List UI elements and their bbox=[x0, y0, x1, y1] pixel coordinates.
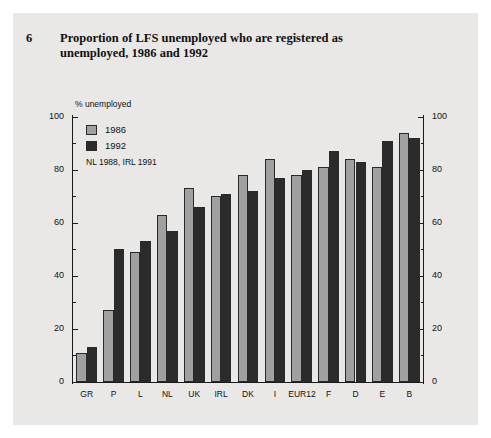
bar-EUR12-1986 bbox=[291, 175, 301, 382]
bar-IRL-1986 bbox=[211, 196, 221, 382]
y-tick-label-left-80: 80 bbox=[32, 165, 64, 174]
bar-group-B bbox=[396, 117, 423, 382]
page-title: Proportion of LFS unemployed who are reg… bbox=[60, 31, 412, 61]
legend-item-1986: 1986 bbox=[86, 125, 157, 135]
x-axis-label-NL: NL bbox=[154, 389, 181, 399]
x-axis-label-D: D bbox=[342, 389, 369, 399]
x-axis-label-DK: DK bbox=[235, 389, 262, 399]
figure-title-block: 6 Proportion of LFS unemployed who are r… bbox=[26, 31, 456, 61]
x-axis-label-F: F bbox=[315, 389, 342, 399]
legend-note: NL 1988, IRL 1991 bbox=[86, 157, 157, 167]
bar-GR-1986 bbox=[76, 353, 86, 382]
bar-group-F bbox=[315, 117, 342, 382]
x-axis-label-B: B bbox=[396, 389, 423, 399]
y-tick-label-right-40: 40 bbox=[432, 271, 464, 280]
x-axis-label-P: P bbox=[100, 389, 127, 399]
figure-panel: 6 Proportion of LFS unemployed who are r… bbox=[13, 13, 478, 425]
bar-group-EUR12 bbox=[288, 117, 315, 382]
bar-UK-1986 bbox=[184, 188, 194, 381]
bar-F-1986 bbox=[318, 167, 328, 382]
bar-IRL-1992 bbox=[221, 194, 231, 382]
bar-UK-1992 bbox=[194, 207, 204, 382]
bar-B-1992 bbox=[409, 138, 419, 382]
x-axis-label-GR: GR bbox=[73, 389, 100, 399]
bar-group-I bbox=[261, 117, 288, 382]
bar-NL-1992 bbox=[167, 231, 177, 382]
legend-item-1992: 1992 bbox=[86, 141, 157, 151]
x-axis-label-IRL: IRL bbox=[208, 389, 235, 399]
legend-label-1986: 1986 bbox=[105, 125, 126, 135]
bar-E-1992 bbox=[382, 141, 392, 382]
bar-F-1992 bbox=[329, 151, 339, 382]
x-axis-label-UK: UK bbox=[181, 389, 208, 399]
y-tick-label-right-60: 60 bbox=[432, 218, 464, 227]
x-axis-category-labels: GRPLNLUKIRLDKIEUR12FDEB bbox=[72, 389, 424, 403]
bar-group-E bbox=[369, 117, 396, 382]
bar-DK-1986 bbox=[238, 175, 248, 382]
bar-I-1986 bbox=[265, 159, 275, 382]
bar-I-1992 bbox=[275, 178, 285, 382]
bar-group-UK bbox=[181, 117, 208, 382]
legend-swatch-icon-1992 bbox=[86, 141, 97, 151]
y-tick-label-right-100: 100 bbox=[432, 112, 464, 121]
y-tick-label-left-20: 20 bbox=[32, 324, 64, 333]
legend-swatch-icon-1986 bbox=[86, 125, 97, 135]
x-axis-label-E: E bbox=[369, 389, 396, 399]
y-tick-major-right-0 bbox=[418, 382, 424, 383]
bar-E-1986 bbox=[372, 167, 382, 382]
bar-group-NL bbox=[154, 117, 181, 382]
legend-label-1992: 1992 bbox=[105, 141, 126, 151]
y-axis-unit-label: % unemployed bbox=[75, 99, 131, 109]
bar-L-1992 bbox=[140, 241, 150, 381]
y-tick-label-left-40: 40 bbox=[32, 271, 64, 280]
y-axis-right-labels: 020406080100 bbox=[432, 116, 464, 383]
y-tick-label-right-80: 80 bbox=[432, 165, 464, 174]
figure-number: 6 bbox=[26, 31, 60, 46]
x-axis-label-EUR12: EUR12 bbox=[288, 389, 315, 399]
y-tick-label-left-100: 100 bbox=[32, 112, 64, 121]
bar-P-1992 bbox=[114, 249, 124, 382]
y-tick-label-right-20: 20 bbox=[432, 324, 464, 333]
bar-group-IRL bbox=[208, 117, 235, 382]
bar-L-1986 bbox=[130, 252, 140, 382]
x-axis bbox=[72, 382, 424, 383]
bar-D-1986 bbox=[345, 159, 355, 382]
bar-group-D bbox=[342, 117, 369, 382]
bar-NL-1986 bbox=[157, 215, 167, 382]
bar-B-1986 bbox=[399, 133, 409, 382]
bar-P-1986 bbox=[103, 310, 113, 382]
y-tick-label-left-60: 60 bbox=[32, 218, 64, 227]
y-tick-major-left-0 bbox=[72, 382, 78, 383]
x-axis-label-I: I bbox=[261, 389, 288, 399]
y-tick-label-right-0: 0 bbox=[432, 377, 464, 386]
chart-legend: 1986 1992 NL 1988, IRL 1991 bbox=[86, 125, 157, 167]
y-axis-left-labels: 020406080100 bbox=[32, 116, 64, 383]
bar-EUR12-1992 bbox=[302, 170, 312, 382]
bar-GR-1992 bbox=[87, 347, 97, 381]
bar-D-1992 bbox=[356, 162, 366, 382]
y-tick-label-left-0: 0 bbox=[32, 377, 64, 386]
x-axis-label-L: L bbox=[127, 389, 154, 399]
bar-group-DK bbox=[235, 117, 262, 382]
bar-DK-1992 bbox=[248, 191, 258, 382]
